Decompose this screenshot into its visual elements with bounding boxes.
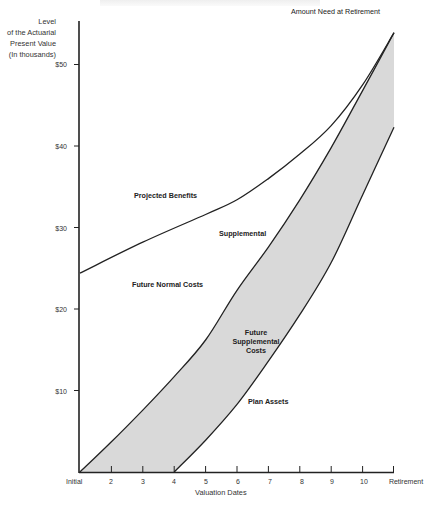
annotation-line: Costs (226, 346, 286, 355)
y-tick-label: $20 (37, 306, 67, 313)
y-axis-title-line: (In thousands) (7, 49, 56, 60)
chart-plot (0, 0, 431, 511)
future-supplemental-costs-area (80, 33, 394, 472)
x-tick-label: 10 (349, 478, 379, 485)
x-tick-label: Initial (66, 478, 96, 485)
x-tick-label: Retirement (381, 478, 431, 485)
x-tick-label: 3 (128, 478, 158, 485)
annotation-line: Supplemental (226, 337, 286, 346)
y-tick-label: $30 (37, 225, 67, 232)
x-tick-label: 2 (96, 478, 126, 485)
annotation-supplemental: Supplemental (219, 229, 266, 238)
y-tick-label: $50 (37, 61, 67, 68)
annotation-future-supplemental-costs: Future Supplemental Costs (226, 328, 286, 355)
x-tick-label: 6 (223, 478, 253, 485)
x-axis-title: Valuation Dates (195, 488, 247, 497)
supplemental-line (80, 33, 394, 472)
annotation-line: Future (226, 328, 286, 337)
x-tick-label: 5 (191, 478, 221, 485)
y-tick-label: $40 (37, 143, 67, 150)
y-axis-title: Level of the Actuarial Present Value (In… (7, 16, 56, 60)
y-tick-label: $10 (37, 388, 67, 395)
y-axis-title-line: Present Value (7, 38, 56, 49)
x-tick-label: 8 (287, 478, 317, 485)
annotation-future-normal-costs: Future Normal Costs (132, 280, 203, 289)
annotation-plan-assets: Plan Assets (248, 397, 288, 406)
x-tick-label: 4 (159, 478, 189, 485)
x-tick-label: 9 (317, 478, 347, 485)
y-axis-title-line: of the Actuarial (7, 27, 56, 38)
y-axis-title-line: Level (7, 16, 56, 27)
annotation-amount-need: Amount Need at Retirement (291, 7, 380, 16)
x-tick-label: 7 (255, 478, 285, 485)
annotation-projected-benefits: Projected Benefits (134, 191, 197, 200)
